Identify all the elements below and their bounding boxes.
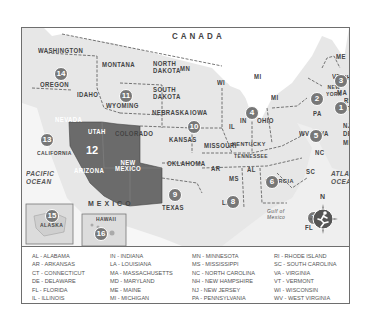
label-nevada: NEVADA [55,117,82,124]
label-texas: TEXAS [162,205,184,212]
region-badge-15: 15 [45,209,59,223]
legend-item: WI - WISCONSIN [274,286,336,294]
label-oregon: OREGON [40,82,69,89]
label-nebraska: NEBRASKA [152,110,189,117]
label-nj: NJ [343,123,349,130]
legend-item: NJ - NEW JERSEY [192,286,255,294]
legend-item: SC - SOUTH CAROLINA [274,260,336,268]
legend-item: PA - PENNSYLVANIA [192,294,255,302]
label-md: MD [343,140,349,147]
label-sc: SC [306,169,315,176]
label-washington: WASHINGTON [38,48,83,55]
legend-item: AR - ARKANSAS [32,260,85,268]
label-pacific-ocean: PACIFICOCEAN [26,169,54,184]
legend-item: LA - LOUISIANA [110,260,173,268]
legend-item: MN - MINNESOTA [192,252,255,260]
compass-rose [308,204,338,234]
legend-item: RI - RHODE ISLAND [274,252,336,260]
us-region-map: CANADA WASHINGTON OREGON MONTANA IDAHO W… [22,28,349,247]
legend-item: MD - MARYLAND [110,277,173,285]
region-badge-3: 3 [334,74,348,88]
state-abbreviation-legend: AL - ALABAMA AR - ARKANSAS CT - CONNECTI… [22,247,349,303]
label-atlantic-ocean: ATLANTICOCEAN [331,169,349,184]
region-badge-6: 6 [265,175,279,189]
legend-item: CT - CONNECTICUT [32,269,85,277]
map-frame: CANADA WASHINGTON OREGON MONTANA IDAHO W… [21,27,350,304]
label-oklahoma: OKLAHOMA [167,161,206,168]
label-hawaii: HAWAII [96,216,116,223]
label-me: ME [336,54,346,61]
label-mi-lower: MI [271,95,278,102]
label-il: IL [229,124,235,131]
legend-item: VA - VIRGINIA [274,269,336,277]
legend-item: NC - NORTH CAROLINA [192,269,255,277]
compass-icon [308,204,338,234]
region-badge-2: 2 [310,92,324,106]
label-gulf-of-mexico: Gulf ofMexico [267,207,285,220]
legend-item: MA - MASSACHUSETTS [110,269,173,277]
region-badge-8: 8 [226,195,240,209]
legend-column-3: MN - MINNESOTA MS - MISSISSIPPI NC - NOR… [192,252,255,302]
legend-item: NH - NEW HAMPSHIRE [192,277,255,285]
region-badge-5: 5 [309,129,323,143]
legend-item: AL - ALABAMA [32,252,85,260]
label-colorado: COLORADO [115,131,153,138]
legend-item: DE - DELAWARE [32,277,85,285]
label-mexico: MEXICO [88,200,134,208]
label-tennessee: TENNESSEE [234,153,268,160]
region-badge-13: 13 [40,133,54,147]
region-badge-12: 12 [86,145,98,157]
label-utah: UTAH [88,129,106,136]
label-wi: WI [217,80,225,87]
label-wv: WV [299,131,309,138]
region-badge-11: 11 [119,89,133,103]
legend-item: FL - FLORIDA [32,286,85,294]
label-canada: CANADA [172,32,225,42]
label-al: AL [247,167,256,174]
region-badge-16: 16 [94,227,108,241]
legend-item: IN - INDIANA [110,252,173,260]
label-nc: NC [315,150,324,157]
region-badge-1: 1 [334,101,348,115]
legend-column-1: AL - ALABAMA AR - ARKANSAS CT - CONNECTI… [32,252,85,302]
region-badge-9: 9 [168,188,182,202]
label-kentucky: KENTUCKY [232,141,266,148]
legend-item: ME - MAINE [110,286,173,294]
label-iowa: IOWA [190,110,208,117]
label-montana: MONTANA [102,62,135,69]
label-arizona: ARIZONA [74,168,104,175]
label-kansas: KANSAS [169,137,197,144]
legend-item: MI - MICHIGAN [110,294,173,302]
label-mi-upper: MI [254,74,261,81]
legend-column-4: RI - RHODE ISLAND SC - SOUTH CAROLINA VA… [274,252,336,302]
label-wyoming: WYOMING [106,103,139,110]
legend-column-2: IN - INDIANA LA - LOUISIANA MA - MASSACH… [110,252,173,302]
label-ohio: OHIO [257,118,274,125]
legend-item: IL - ILLINOIS [32,294,85,302]
legend-item: MS - MISSISSIPPI [192,260,255,268]
label-north-dakota: NORTHDAKOTA [153,60,181,73]
label-mn: MN [180,66,190,73]
label-ar: AR [211,166,220,173]
region-badge-4: 4 [245,106,259,120]
label-ma: MA [337,90,347,97]
label-de: DE [343,131,349,138]
label-in: IN [240,118,247,125]
label-south-dakota: SOUTHDAKOTA [153,86,181,99]
label-ms: MS [229,176,239,183]
region-badge-14: 14 [54,67,68,81]
legend-item: VT - VERMONT [274,277,336,285]
legend-item: WV - WEST VIRGINIA [274,294,336,302]
label-california: CALIFORNIA [37,150,72,157]
label-pa: PA [313,111,322,118]
label-idaho: IDAHO [77,92,98,99]
region-badge-10: 10 [187,120,201,134]
label-new-mexico: NEWMEXICO [115,159,141,172]
compass-north-label: N [320,193,325,201]
